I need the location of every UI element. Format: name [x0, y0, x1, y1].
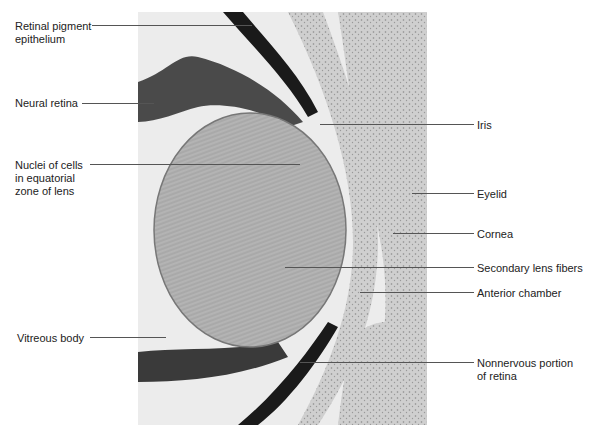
leader-line	[320, 124, 474, 125]
label-retinal-pigment-epithelium: Retinal pigment epithelium	[15, 20, 91, 46]
leader-line	[92, 25, 252, 26]
label-secondary-lens-fibers: Secondary lens fibers	[477, 262, 583, 275]
leader-line	[82, 103, 154, 104]
leader-line	[412, 193, 474, 194]
leader-line	[300, 362, 474, 363]
label-anterior-chamber: Anterior chamber	[477, 287, 561, 300]
histology-micrograph	[138, 12, 427, 425]
label-vitreous-body: Vitreous body	[17, 332, 84, 345]
label-iris: Iris	[477, 119, 492, 132]
label-nuclei-equatorial-zone: Nuclei of cells in equatorial zone of le…	[15, 159, 83, 198]
label-neural-retina: Neural retina	[15, 97, 78, 110]
label-cornea: Cornea	[477, 228, 513, 241]
leader-line	[285, 267, 474, 268]
leader-line	[393, 233, 474, 234]
leader-line	[90, 164, 300, 165]
leader-line	[360, 292, 474, 293]
label-eyelid: Eyelid	[477, 188, 507, 201]
leader-line	[90, 337, 166, 338]
label-nonnervous-portion-retina: Nonnervous portion of retina	[477, 357, 573, 383]
